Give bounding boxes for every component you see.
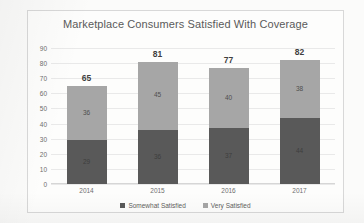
y-axis-tick-label: 0: [43, 181, 47, 188]
bar-segment-somewhat-satisfied[interactable]: 44: [280, 118, 320, 184]
bar-slot[interactable]: 814536: [122, 48, 193, 184]
bar-segment-very-satisfied[interactable]: 45: [138, 62, 178, 130]
segment-value-label: 36: [83, 110, 90, 117]
bar-slot[interactable]: 774037: [193, 48, 264, 184]
bar-stack[interactable]: 774037: [209, 68, 249, 184]
bar-segment-somewhat-satisfied[interactable]: 36: [138, 130, 178, 184]
legend-item[interactable]: Somewhat Satisfied: [120, 202, 185, 209]
bar-segment-somewhat-satisfied[interactable]: 37: [209, 128, 249, 184]
segment-value-label: 38: [296, 86, 303, 93]
plot-area: 0102030405060708090 65362981453677403782…: [51, 48, 335, 184]
segment-value-label: 45: [154, 92, 161, 99]
y-axis-tick-label: 40: [40, 120, 47, 127]
legend-swatch-icon: [203, 203, 208, 208]
chart-frame: Marketplace Consumers Satisfied With Cov…: [27, 10, 344, 213]
bar-stack[interactable]: 814536: [138, 62, 178, 184]
gridline: [51, 184, 335, 185]
x-axis-label: 2017: [264, 187, 335, 194]
x-axis-label: 2015: [122, 187, 193, 194]
chart-title: Marketplace Consumers Satisfied With Cov…: [28, 18, 343, 30]
chart-legend: Somewhat SatisfiedVery Satisfied: [28, 202, 343, 209]
x-axis-labels: 2014201520162017: [51, 187, 335, 194]
segment-value-label: 36: [154, 154, 161, 161]
segment-value-label: 40: [225, 95, 232, 102]
x-axis-label: 2016: [193, 187, 264, 194]
chart-screenshot: Marketplace Consumers Satisfied With Cov…: [0, 0, 364, 223]
bar-slot[interactable]: 653629: [51, 48, 122, 184]
bar-total-label: 82: [295, 47, 304, 57]
bar-total-label: 81: [153, 49, 162, 59]
y-axis-tick-label: 50: [40, 105, 47, 112]
legend-label: Very Satisfied: [211, 202, 251, 209]
legend-swatch-icon: [120, 203, 125, 208]
segment-value-label: 44: [296, 148, 303, 155]
y-axis-tick-label: 60: [40, 90, 47, 97]
bar-total-label: 65: [82, 73, 91, 83]
segment-value-label: 37: [225, 153, 232, 160]
legend-item[interactable]: Very Satisfied: [203, 202, 251, 209]
bar-segment-very-satisfied[interactable]: 40: [209, 68, 249, 128]
segment-value-label: 29: [83, 159, 90, 166]
y-axis-tick-label: 80: [40, 60, 47, 67]
bar-stack[interactable]: 653629: [67, 86, 107, 184]
bar-segment-very-satisfied[interactable]: 36: [67, 86, 107, 140]
legend-label: Somewhat Satisfied: [128, 202, 185, 209]
bar-stack[interactable]: 823844: [280, 60, 320, 184]
y-axis-tick-label: 10: [40, 165, 47, 172]
bar-segment-somewhat-satisfied[interactable]: 29: [67, 140, 107, 184]
bar-total-label: 77: [224, 55, 233, 65]
y-axis-tick-label: 70: [40, 75, 47, 82]
x-axis-label: 2014: [51, 187, 122, 194]
bar-slot[interactable]: 823844: [264, 48, 335, 184]
y-axis-tick-label: 90: [40, 45, 47, 52]
y-axis-tick-label: 20: [40, 150, 47, 157]
bar-series-layer: 653629814536774037823844: [51, 48, 335, 184]
bar-segment-very-satisfied[interactable]: 38: [280, 60, 320, 117]
y-axis-tick-label: 30: [40, 135, 47, 142]
